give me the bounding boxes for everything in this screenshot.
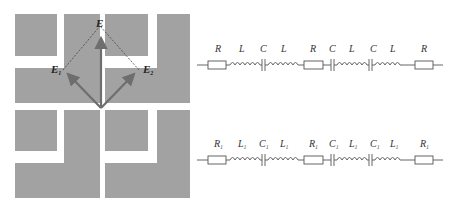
inductor-l-3 [337, 63, 367, 66]
top-circuit-labels: R L C L R C L C L R [214, 43, 427, 54]
label-c-2: C [329, 43, 336, 54]
unit-cell-bottom-left [15, 110, 100, 198]
label-l-2: L [280, 43, 287, 54]
label-l1-2: L1 [279, 138, 289, 150]
label-r1-3: R1 [419, 138, 429, 150]
resistor-r1-2 [304, 156, 323, 164]
resistor-r-3 [415, 61, 433, 69]
inductor-l1-4 [375, 158, 400, 161]
bottom-circuit-labels: R1 L1 C1 L1 R1 C1 L1 C1 L1 R1 [213, 138, 429, 150]
label-r-3: R [420, 43, 427, 54]
unit-cell-top-left [15, 14, 100, 103]
label-c-1: C [260, 43, 267, 54]
resistor-r-1 [208, 61, 226, 69]
label-l-1: L [238, 43, 245, 54]
unit-cell-bottom-right [105, 110, 190, 198]
label-l1-4: L1 [389, 138, 399, 150]
resistor-r1-1 [208, 156, 226, 164]
label-l1-1: L1 [237, 138, 247, 150]
inductor-l1-1 [230, 158, 260, 161]
inductor-l-2 [268, 63, 298, 66]
inductor-l-1 [230, 63, 260, 66]
vector-e2-label: E2 [142, 63, 153, 76]
inductor-l1-2 [268, 158, 298, 161]
label-c1-2: C1 [329, 138, 339, 150]
label-c1-3: C1 [370, 138, 380, 150]
label-c1-1: C1 [259, 138, 269, 150]
resistor-r1-3 [415, 156, 433, 164]
label-r1-1: R1 [213, 138, 223, 150]
inductor-l1-3 [337, 158, 367, 161]
vector-e-label: E [95, 17, 103, 29]
vector-e1-label: E1 [50, 63, 61, 76]
label-r-2: R [309, 43, 316, 54]
label-l1-3: L1 [348, 138, 358, 150]
resistor-r-2 [304, 61, 323, 69]
label-r-1: R [214, 43, 221, 54]
bottom-circuit [197, 154, 443, 166]
label-l-3: L [348, 43, 355, 54]
label-l-4: L [389, 43, 396, 54]
inductor-l-4 [375, 63, 400, 66]
label-c-3: C [370, 43, 377, 54]
label-r1-2: R1 [308, 138, 318, 150]
figure: E E1 E2 R L C L R C L [0, 0, 451, 212]
top-circuit [197, 59, 443, 71]
